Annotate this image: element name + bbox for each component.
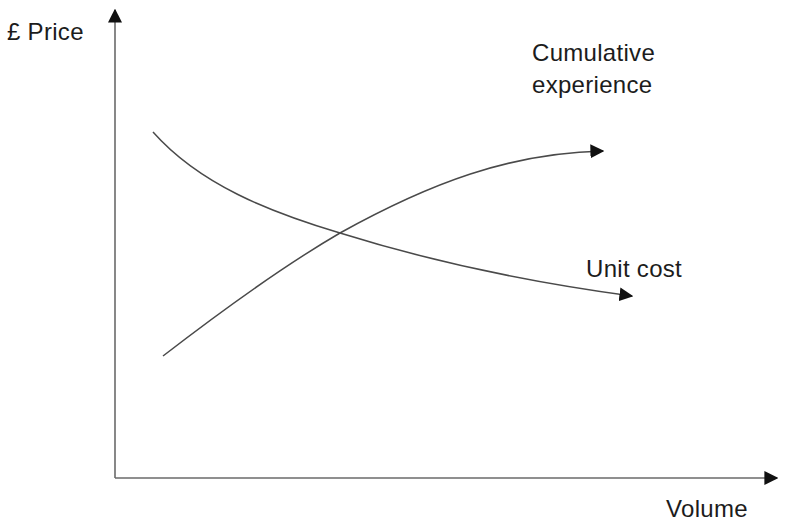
cumulative-experience-label: Cumulative experience: [532, 37, 655, 101]
cumulative-experience-label-line2: experience: [532, 69, 655, 101]
cumulative-experience-curve: [163, 151, 603, 356]
unit-cost-curve: [153, 132, 632, 296]
x-axis-label: Volume: [666, 494, 748, 524]
unit-cost-label: Unit cost: [586, 254, 682, 284]
cumulative-experience-label-line1: Cumulative: [532, 37, 655, 69]
y-axis-label: £ Price: [7, 17, 84, 47]
